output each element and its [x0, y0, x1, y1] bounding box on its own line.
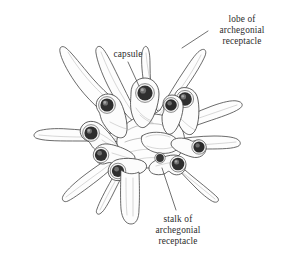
label-lobe-line1: lobe of: [228, 14, 256, 24]
label-stalk-line3: receptacle: [158, 236, 197, 246]
label-capsule: capsule: [114, 49, 143, 59]
figure-container: capsule lobe of archegonial receptacle s…: [0, 0, 286, 258]
label-capsule-line1: capsule: [114, 49, 143, 59]
capsule-sphere: [137, 85, 152, 100]
label-stalk-line2: archegonial: [155, 225, 200, 235]
archegonial-receptacle-illustration: capsule lobe of archegonial receptacle s…: [0, 0, 286, 258]
label-stalk-line1: stalk of: [164, 214, 194, 224]
label-lobe-line2: archegonial: [219, 25, 264, 35]
capsule-sphere: [156, 154, 164, 162]
label-lobe-line3: receptacle: [222, 36, 261, 46]
receptacle-stalk: [121, 170, 140, 224]
capsule-chamber-centre-small: [155, 153, 165, 163]
